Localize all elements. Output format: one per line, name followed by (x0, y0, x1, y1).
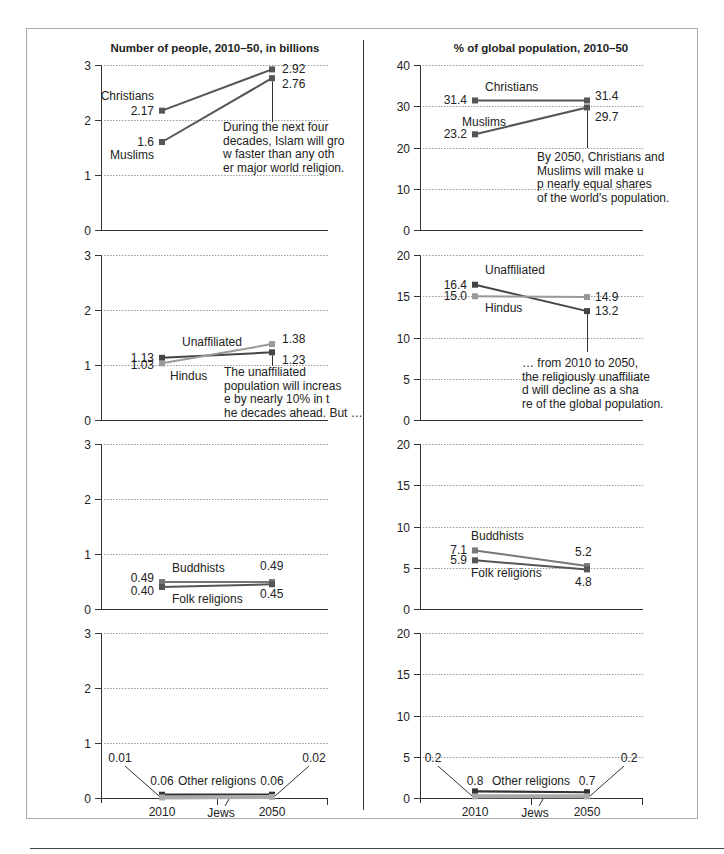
value-label: 2.92 (282, 62, 306, 76)
annotation-text: … from 2010 to 2050,the religiously unaf… (522, 356, 663, 411)
data-point (584, 308, 590, 314)
figure-frame (27, 29, 698, 819)
series-name-label: Unaffiliated (485, 263, 545, 277)
y-tick-label: 0 (403, 414, 410, 428)
series-name-label: Folk religions (471, 566, 542, 580)
y-tick-label: 1 (84, 169, 91, 183)
value-label: 0.06 (150, 774, 174, 788)
value-label: 5.2 (575, 545, 592, 559)
panel-number-row-1: 01232.172.92Christians1.62.76MuslimsDuri… (84, 59, 344, 238)
y-tick-label: 20 (397, 627, 411, 641)
value-label: 0.8 (467, 774, 484, 788)
series-name-label: Other religions (178, 774, 256, 788)
value-label: 29.7 (595, 110, 619, 124)
value-label: 14.9 (595, 290, 619, 304)
data-point (269, 75, 275, 81)
y-tick-label: 5 (403, 562, 410, 576)
data-point (159, 355, 165, 361)
data-point (584, 97, 590, 103)
y-tick-label: 15 (397, 479, 411, 493)
y-tick-label: 30 (397, 100, 411, 114)
series-line-hindus (475, 296, 587, 297)
y-tick-label: 10 (397, 710, 411, 724)
panel-share-row-2: 0510152016.413.2Unaffiliated15.014.9Hind… (397, 249, 664, 428)
series-name-label: Other religions (492, 774, 570, 788)
series-line-folk-religions (162, 584, 272, 587)
y-tick-label: 3 (84, 627, 91, 641)
value-label: 0.06 (260, 774, 284, 788)
y-tick-label: 1 (84, 359, 91, 373)
panel-number-row-4: 0123201020500.060.06Other religions0.010… (84, 627, 328, 821)
data-point (472, 293, 478, 299)
y-tick-label: 2 (84, 493, 91, 507)
series-line-other-religions (475, 791, 587, 792)
y-tick-label: 3 (84, 438, 91, 452)
callout-leader (225, 799, 229, 806)
y-tick-label: 10 (397, 521, 411, 535)
series-name-label: Jews (207, 806, 234, 820)
series-line-jews (162, 797, 272, 798)
series-name-label: Muslims (462, 115, 506, 129)
data-point (269, 794, 275, 800)
y-tick-label: 3 (84, 59, 91, 73)
data-point (472, 97, 478, 103)
y-tick-label: 15 (397, 668, 411, 682)
data-point (269, 341, 275, 347)
series-name-label: Buddhists (471, 529, 524, 543)
panel-number-row-3: 01230.490.49Buddhists0.400.45Folk religi… (84, 438, 328, 617)
y-tick-label: 2 (84, 114, 91, 128)
value-label: 0.49 (260, 559, 284, 573)
value-label: 2.76 (282, 77, 306, 91)
data-point (584, 104, 590, 110)
y-tick-label: 1 (84, 737, 91, 751)
series-name-label: Unaffiliated (182, 335, 242, 349)
value-label: 2.17 (131, 104, 155, 118)
value-label: 5.9 (450, 553, 467, 567)
value-label: 31.4 (595, 89, 619, 103)
series-name-label: Christians (485, 80, 538, 94)
value-label: 0.01 (108, 751, 132, 765)
series-name-label: Jews (521, 806, 548, 820)
data-point (472, 557, 478, 563)
y-tick-label: 40 (397, 59, 411, 73)
y-tick-label: 20 (397, 249, 411, 263)
series-name-label: Hindus (170, 369, 207, 383)
series-name-label: Hindus (485, 301, 522, 315)
y-tick-label: 0 (84, 414, 91, 428)
y-tick-label: 2 (84, 304, 91, 318)
data-point (472, 282, 478, 288)
value-label: 0.40 (131, 584, 155, 598)
y-tick-label: 5 (403, 373, 410, 387)
data-point (472, 131, 478, 137)
value-label: 15.0 (444, 289, 468, 303)
data-point (269, 66, 275, 72)
data-point (472, 793, 478, 799)
series-name-label: Muslims (110, 148, 154, 162)
value-label: 31.4 (444, 93, 468, 107)
value-label: 4.8 (575, 575, 592, 589)
data-point (584, 793, 590, 799)
value-label: 0.2 (621, 751, 638, 765)
y-tick-label: 10 (397, 332, 411, 346)
y-tick-label: 15 (397, 290, 411, 304)
y-tick-label: 2 (84, 682, 91, 696)
series-line-buddhists (475, 550, 587, 566)
data-point (159, 360, 165, 366)
annotation-text: By 2050, Christians andMuslims will make… (537, 150, 669, 205)
y-tick-label: 3 (84, 249, 91, 263)
data-point (159, 139, 165, 145)
data-point (269, 349, 275, 355)
value-label: 0.45 (260, 587, 284, 601)
annotation-text: During the next fourdecades, Islam will … (222, 120, 345, 175)
value-label: 0.49 (131, 571, 155, 585)
x-tick-label: 2050 (259, 805, 286, 819)
y-tick-label: 0 (84, 603, 91, 617)
y-tick-label: 20 (397, 438, 411, 452)
data-point (584, 566, 590, 572)
series-line-christians (162, 69, 272, 110)
value-label: 13.2 (595, 304, 619, 318)
y-tick-label: 0 (403, 603, 410, 617)
value-label: 0.7 (579, 774, 596, 788)
religion-projection-charts: Number of people, 2010–50, in billions %… (0, 0, 724, 854)
y-tick-label: 10 (397, 183, 411, 197)
